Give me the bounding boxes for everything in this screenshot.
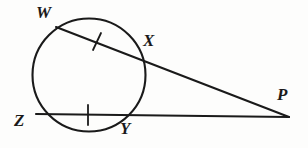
point-label-y: Y	[120, 120, 130, 137]
secant-line-wp	[56, 27, 289, 117]
geometry-canvas	[0, 0, 308, 148]
secant-line-zp	[36, 114, 289, 117]
point-label-x: X	[143, 32, 154, 49]
point-label-z: Z	[14, 112, 24, 129]
geometry-figure: W X Z Y P	[0, 0, 308, 148]
point-label-p: P	[277, 86, 287, 103]
point-label-w: W	[36, 4, 51, 21]
